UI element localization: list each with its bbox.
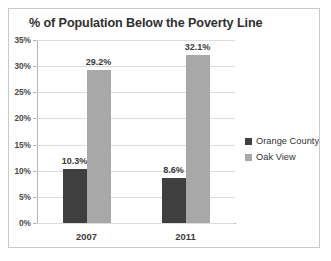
legend-item[interactable]: Oak View [245,149,319,165]
legend-swatch-icon [245,138,252,145]
bar: 32.1% [186,55,210,223]
y-axis-tick [33,118,37,119]
y-axis-tick-label: 15% [14,140,31,150]
y-axis-tick [33,145,37,146]
x-axis-category-label: 2011 [175,231,195,242]
y-axis-tick [33,66,37,67]
bar: 29.2% [87,70,111,223]
y-axis-tick [33,223,37,224]
chart-title: % of Population Below the Poverty Line [29,16,255,30]
y-axis-tick-label: 0% [19,218,31,228]
bar: 8.6% [162,178,186,223]
bar-value-label: 32.1% [185,42,211,52]
y-axis-tick [33,197,37,198]
y-axis-tick-label: 10% [14,166,31,176]
legend-swatch-icon [245,154,252,161]
bar-value-label: 8.6% [163,165,184,175]
y-axis-tick-label: 20% [14,113,31,123]
legend-label: Orange County [256,136,319,146]
gridline: 35% [37,40,235,41]
legend-label: Oak View [256,152,296,162]
bar-value-label: 29.2% [86,57,112,67]
y-axis-tick-label: 25% [14,87,31,97]
y-axis-tick [33,171,37,172]
y-axis-tick [33,40,37,41]
plot-area: 35%30%25%20%15%10%5%0% 10.3%29.2%8.6%32.… [37,40,235,223]
legend-item[interactable]: Orange County [245,133,319,149]
chart-legend: Orange CountyOak View [245,133,319,165]
chart-container: % of Population Below the Poverty Line 3… [8,8,320,248]
y-axis-tick-label: 35% [14,35,31,45]
y-axis-tick-label: 30% [14,61,31,71]
bar-value-label: 10.3% [62,156,88,166]
y-axis-tick [33,92,37,93]
x-axis-category-label: 2007 [76,231,97,242]
y-axis-tick-label: 5% [19,192,31,202]
gridline: 0% [37,223,235,224]
bar: 10.3% [63,169,87,223]
